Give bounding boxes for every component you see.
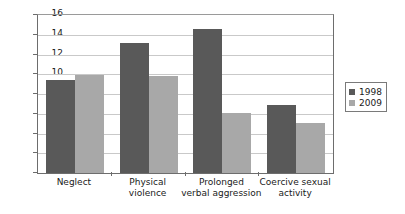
legend: 19982009 xyxy=(345,82,387,112)
bar-group xyxy=(267,15,325,173)
legend-swatch-icon xyxy=(349,89,355,95)
legend-label: 1998 xyxy=(359,87,382,97)
x-tick-mark xyxy=(258,172,259,176)
bar-2009-physical-violence xyxy=(149,76,178,173)
legend-label: 2009 xyxy=(359,98,382,108)
bar-2009-neglect xyxy=(75,75,104,173)
bar-2009-coercive-sexual-activity xyxy=(296,123,325,173)
x-category-label-line: Coercive sexual xyxy=(249,177,341,188)
bar-1998-physical-violence xyxy=(120,43,149,173)
legend-swatch-icon xyxy=(349,100,355,106)
legend-item-1998[interactable]: 1998 xyxy=(349,86,382,97)
bar-1998-coercive-sexual-activity xyxy=(267,105,296,173)
x-tick-mark xyxy=(185,172,186,176)
bar-1998-neglect xyxy=(46,80,75,173)
x-category-label: Coercive sexualactivity xyxy=(249,177,341,199)
bar-1998-prolonged-verbal-aggression xyxy=(193,29,222,173)
bar-group xyxy=(193,15,251,173)
bar-chart: 0246810121416 NeglectPhysicalviolencePro… xyxy=(0,0,405,214)
x-category-label-line: activity xyxy=(249,188,341,199)
bar-group xyxy=(46,15,104,173)
legend-item-2009[interactable]: 2009 xyxy=(349,97,382,108)
x-tick-mark xyxy=(111,172,112,176)
bar-2009-prolonged-verbal-aggression xyxy=(222,113,251,173)
plot-area xyxy=(37,14,334,174)
bar-group xyxy=(120,15,178,173)
